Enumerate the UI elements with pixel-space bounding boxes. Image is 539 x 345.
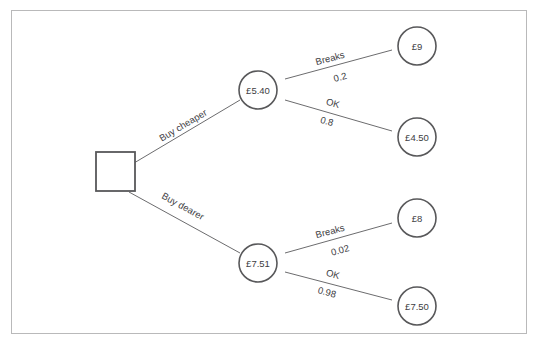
outcome-node-cheaper-breaks-label: £9 xyxy=(412,41,423,52)
outcome-node-dearer-breaks-label: £8 xyxy=(412,213,423,224)
prob-label-cheaper-breaks: 0.2 xyxy=(332,70,348,84)
branch-label-buy-cheaper: Buy cheaper xyxy=(157,107,208,144)
outcome-node-dearer-ok-label: £7.50 xyxy=(405,301,429,312)
edge-buy-cheaper xyxy=(129,100,240,166)
decision-tree-canvas: £5.40 £7.51 £9 £4.50 £8 £7.50 Buy cheape… xyxy=(0,0,539,345)
branch-label-cheaper-ok: OK xyxy=(325,96,342,110)
decision-tree-diagram: £5.40 £7.51 £9 £4.50 £8 £7.50 Buy cheape… xyxy=(0,0,539,345)
branch-label-cheaper-breaks: Breaks xyxy=(314,49,346,67)
decision-node-square[interactable] xyxy=(96,152,135,191)
outcome-node-cheaper-ok-label: £4.50 xyxy=(405,132,429,143)
branch-label-dearer-ok: OK xyxy=(325,267,342,281)
prob-label-dearer-ok: 0.98 xyxy=(317,284,338,299)
chance-node-cheaper-label: £5.40 xyxy=(246,85,270,96)
chance-node-dearer-label: £7.51 xyxy=(246,258,270,269)
prob-label-cheaper-ok: 0.8 xyxy=(319,114,335,128)
branch-label-buy-dearer: Buy dearer xyxy=(160,190,206,222)
prob-label-dearer-breaks: 0.02 xyxy=(330,242,351,257)
